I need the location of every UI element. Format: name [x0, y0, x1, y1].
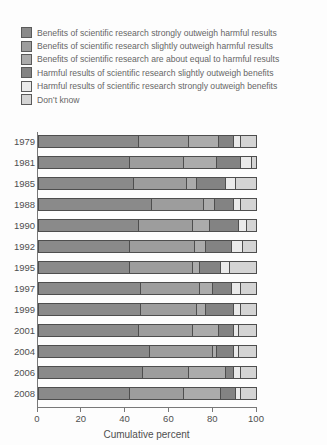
- legend-item: Benefits of scientific research slightly…: [21, 39, 327, 52]
- bar-row: [38, 156, 257, 169]
- bar-row: [38, 387, 257, 400]
- bar-row: [38, 240, 257, 253]
- year-label: 2006: [0, 366, 37, 379]
- bar-segment: [130, 388, 184, 399]
- x-axis-tick-mark: [37, 408, 38, 412]
- bar-segment: [239, 346, 256, 357]
- legend-swatch-icon: [21, 54, 32, 65]
- x-axis-tick-mark: [80, 408, 81, 412]
- legend-swatch-icon: [21, 41, 32, 52]
- year-label: 1985: [0, 177, 37, 190]
- bar-segment: [213, 283, 233, 294]
- x-axis-tick-label: 20: [76, 413, 87, 424]
- bar-segment: [197, 178, 225, 189]
- bar-row: [38, 219, 257, 232]
- bar-row: [38, 366, 257, 379]
- year-label: 1990: [0, 219, 37, 232]
- bar-segment: [39, 157, 130, 168]
- bar-segment: [139, 220, 193, 231]
- bar-segment: [217, 157, 241, 168]
- bar-segment: [139, 325, 193, 336]
- legend-item-label: Harmful results of scientific research s…: [37, 81, 277, 91]
- bar-segment: [226, 178, 237, 189]
- x-axis-tick-label: 60: [163, 413, 174, 424]
- legend-swatch-icon: [21, 67, 32, 78]
- bar-segment: [241, 388, 256, 399]
- legend-item-label: Benefits of scientific research strongly…: [37, 28, 277, 38]
- legend-item: Benefits of scientific research are abou…: [21, 53, 327, 66]
- bar-segment: [197, 304, 206, 315]
- bar-segment: [193, 220, 210, 231]
- year-label: 1992: [0, 240, 37, 253]
- year-label: 2004: [0, 345, 37, 358]
- legend-item-label: Harmful results of scientific research s…: [37, 68, 273, 78]
- legend-item: Benefits of scientific research strongly…: [21, 26, 327, 39]
- year-label: 1979: [0, 135, 37, 148]
- bar-segment: [241, 367, 256, 378]
- bar-segment: [239, 220, 248, 231]
- bar-segment: [252, 157, 256, 168]
- legend-swatch-icon: [21, 94, 32, 105]
- bar-segment: [241, 304, 256, 315]
- bar-segment: [200, 262, 222, 273]
- x-axis-tick-mark: [256, 408, 257, 412]
- bar-segment: [39, 241, 130, 252]
- legend-item-label: Don’t know: [37, 95, 80, 105]
- bar-segment: [130, 262, 193, 273]
- bar-row: [38, 282, 257, 295]
- bar-segment: [241, 199, 256, 210]
- legend: Benefits of scientific research strongly…: [21, 26, 327, 106]
- bar-segment: [184, 388, 221, 399]
- bar-segment: [187, 178, 198, 189]
- bar-row: [38, 324, 257, 337]
- bar-segment: [217, 346, 234, 357]
- legend-item: Harmful results of scientific research s…: [21, 80, 327, 93]
- bar-segment: [39, 367, 143, 378]
- bar-row: [38, 135, 257, 148]
- year-label: 2008: [0, 387, 37, 400]
- bar-segment: [39, 199, 152, 210]
- bar-segment: [206, 241, 232, 252]
- bar-row: [38, 303, 257, 316]
- plot-area: [37, 132, 257, 408]
- bar-segment: [221, 262, 230, 273]
- bar-segment: [236, 178, 256, 189]
- x-axis-tick-label: 80: [207, 413, 218, 424]
- bar-segment: [232, 283, 241, 294]
- year-label: 1981: [0, 156, 37, 169]
- bar-segment: [150, 346, 213, 357]
- bar-segment: [193, 325, 219, 336]
- bar-segment: [152, 199, 204, 210]
- bar-segment: [219, 136, 234, 147]
- bar-row: [38, 198, 257, 211]
- bar-segment: [39, 220, 139, 231]
- bar-row: [38, 177, 257, 190]
- bar-segment: [184, 157, 217, 168]
- x-axis-tick-mark: [124, 408, 125, 412]
- x-axis-title: Cumulative percent: [37, 429, 256, 440]
- bar-segment: [247, 220, 256, 231]
- bar-segment: [230, 262, 256, 273]
- y-axis-year-labels: 1979198119851988199019921995199719992001…: [0, 132, 37, 408]
- bar-segment: [200, 283, 213, 294]
- bar-segment: [39, 325, 139, 336]
- bar-segment: [143, 367, 189, 378]
- bar-segment: [130, 241, 195, 252]
- bar-segment: [210, 220, 238, 231]
- bar-segment: [195, 241, 206, 252]
- x-axis-tick-label: 100: [248, 413, 264, 424]
- bar-segment: [39, 346, 150, 357]
- bar-segment: [139, 136, 189, 147]
- bar-row: [38, 345, 257, 358]
- bar-segment: [241, 136, 256, 147]
- bar-segment: [241, 283, 256, 294]
- bar-segment: [232, 241, 243, 252]
- x-axis-tick-mark: [212, 408, 213, 412]
- bar-segment: [226, 367, 235, 378]
- bar-segment: [141, 304, 197, 315]
- chart: 1979198119851988199019921995199719992001…: [0, 132, 327, 408]
- bar-segment: [39, 283, 141, 294]
- bar-segment: [134, 178, 186, 189]
- bar-segment: [239, 325, 256, 336]
- legend-item-label: Benefits of scientific research slightly…: [37, 41, 273, 51]
